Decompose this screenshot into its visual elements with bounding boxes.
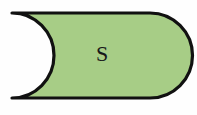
- shape-label-s: S: [96, 41, 108, 66]
- diagram-svg: S: [0, 0, 197, 115]
- diagram-canvas: S: [0, 0, 197, 115]
